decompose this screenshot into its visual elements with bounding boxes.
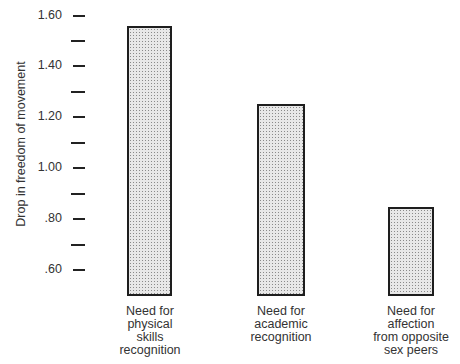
y-tick-minor [71,40,85,42]
y-tick-minor [71,193,85,195]
y-tick-major [73,218,85,220]
y-tick-label: 1.60 [22,8,62,22]
x-category-label: Need for affection from opposite sex pee… [356,305,460,357]
y-tick-major [73,167,85,169]
y-tick-label: 1.40 [22,58,62,72]
bar-chart: Drop in freedom of movement 1.60 1.40 1.… [0,0,460,364]
y-tick-major [73,65,85,67]
bar-affection-opposite-sex-peers [388,207,434,296]
y-tick-minor [71,244,85,246]
y-tick-label: .80 [22,211,62,225]
x-category-label: Need for academic recognition [236,305,326,344]
bar-physical-skills-recognition [127,26,172,296]
y-tick-minor [71,142,85,144]
x-category-label: Need for physical skills recognition [105,305,195,357]
y-tick-major [73,269,85,271]
y-tick-label: 1.20 [22,109,62,123]
y-tick-label: 1.00 [22,160,62,174]
y-tick-minor [71,91,85,93]
y-tick-label: .60 [22,262,62,276]
y-tick-major [73,116,85,118]
y-tick-major [73,15,85,17]
bar-academic-recognition [257,104,305,296]
